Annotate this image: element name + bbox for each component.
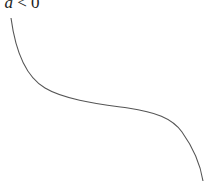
function-graph (0, 0, 208, 181)
cubic-curve (11, 18, 203, 181)
